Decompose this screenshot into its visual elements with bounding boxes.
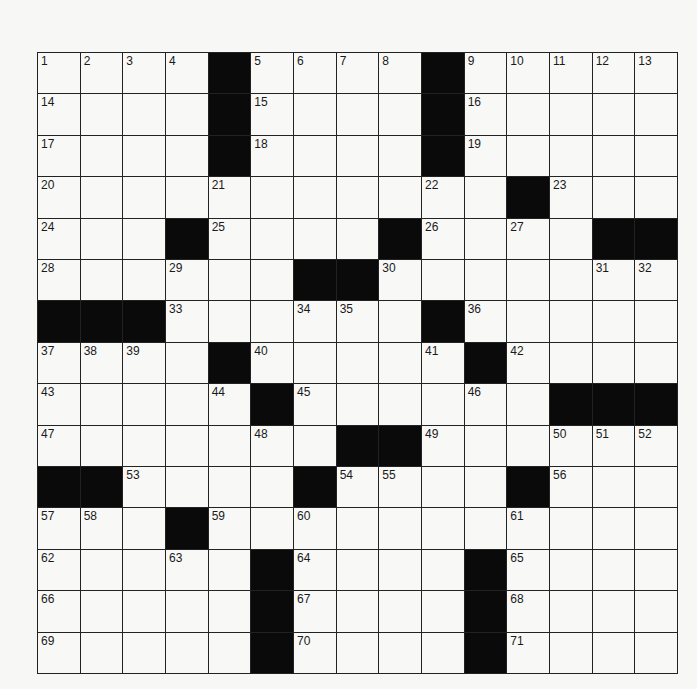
grid-cell[interactable]	[166, 633, 208, 673]
grid-cell[interactable]: 59	[209, 508, 251, 548]
grid-cell[interactable]	[507, 301, 549, 341]
grid-cell[interactable]	[81, 384, 123, 424]
grid-cell[interactable]: 11	[550, 53, 592, 93]
grid-cell[interactable]: 51	[593, 426, 635, 466]
grid-cell[interactable]: 39	[123, 343, 165, 383]
grid-cell[interactable]	[251, 177, 293, 217]
grid-cell[interactable]: 5	[251, 53, 293, 93]
grid-cell[interactable]	[593, 550, 635, 590]
grid-cell[interactable]: 12	[593, 53, 635, 93]
grid-cell[interactable]	[507, 426, 549, 466]
grid-cell[interactable]	[81, 633, 123, 673]
grid-cell[interactable]	[465, 260, 507, 300]
grid-cell[interactable]	[507, 136, 549, 176]
grid-cell[interactable]	[337, 550, 379, 590]
grid-cell[interactable]: 7	[337, 53, 379, 93]
grid-cell[interactable]	[550, 633, 592, 673]
grid-cell[interactable]	[635, 550, 677, 590]
grid-cell[interactable]	[507, 94, 549, 134]
grid-cell[interactable]: 46	[465, 384, 507, 424]
grid-cell[interactable]	[337, 343, 379, 383]
grid-cell[interactable]: 45	[294, 384, 336, 424]
grid-cell[interactable]	[123, 384, 165, 424]
grid-cell[interactable]	[294, 94, 336, 134]
grid-cell[interactable]	[379, 550, 421, 590]
grid-cell[interactable]	[422, 260, 464, 300]
grid-cell[interactable]	[550, 219, 592, 259]
grid-cell[interactable]	[550, 301, 592, 341]
grid-cell[interactable]: 65	[507, 550, 549, 590]
grid-cell[interactable]	[337, 94, 379, 134]
grid-cell[interactable]: 63	[166, 550, 208, 590]
grid-cell[interactable]	[123, 94, 165, 134]
grid-cell[interactable]	[337, 633, 379, 673]
grid-cell[interactable]	[550, 94, 592, 134]
grid-cell[interactable]: 36	[465, 301, 507, 341]
grid-cell[interactable]	[507, 384, 549, 424]
grid-cell[interactable]	[209, 467, 251, 507]
grid-cell[interactable]: 35	[337, 301, 379, 341]
grid-cell[interactable]	[209, 591, 251, 631]
grid-cell[interactable]	[465, 508, 507, 548]
grid-cell[interactable]: 6	[294, 53, 336, 93]
grid-cell[interactable]	[337, 136, 379, 176]
grid-cell[interactable]: 24	[38, 219, 80, 259]
grid-cell[interactable]	[635, 94, 677, 134]
grid-cell[interactable]	[422, 550, 464, 590]
grid-cell[interactable]: 48	[251, 426, 293, 466]
grid-cell[interactable]	[123, 633, 165, 673]
grid-cell[interactable]: 28	[38, 260, 80, 300]
grid-cell[interactable]: 13	[635, 53, 677, 93]
grid-cell[interactable]	[337, 591, 379, 631]
grid-cell[interactable]: 54	[337, 467, 379, 507]
grid-cell[interactable]	[422, 633, 464, 673]
grid-cell[interactable]: 58	[81, 508, 123, 548]
grid-cell[interactable]: 17	[38, 136, 80, 176]
grid-cell[interactable]	[81, 426, 123, 466]
grid-cell[interactable]	[635, 591, 677, 631]
grid-cell[interactable]: 41	[422, 343, 464, 383]
grid-cell[interactable]	[123, 136, 165, 176]
grid-cell[interactable]	[166, 467, 208, 507]
grid-cell[interactable]	[379, 94, 421, 134]
grid-cell[interactable]: 34	[294, 301, 336, 341]
grid-cell[interactable]	[123, 219, 165, 259]
grid-cell[interactable]: 26	[422, 219, 464, 259]
grid-cell[interactable]: 9	[465, 53, 507, 93]
grid-cell[interactable]: 15	[251, 94, 293, 134]
grid-cell[interactable]: 56	[550, 467, 592, 507]
grid-cell[interactable]	[465, 467, 507, 507]
grid-cell[interactable]	[550, 508, 592, 548]
grid-cell[interactable]	[337, 384, 379, 424]
grid-cell[interactable]	[123, 508, 165, 548]
grid-cell[interactable]	[593, 177, 635, 217]
grid-cell[interactable]	[379, 136, 421, 176]
grid-cell[interactable]	[550, 591, 592, 631]
grid-cell[interactable]	[209, 633, 251, 673]
grid-cell[interactable]	[635, 136, 677, 176]
grid-cell[interactable]	[209, 426, 251, 466]
grid-cell[interactable]	[507, 260, 549, 300]
grid-cell[interactable]	[337, 508, 379, 548]
grid-cell[interactable]: 66	[38, 591, 80, 631]
grid-cell[interactable]	[123, 550, 165, 590]
grid-cell[interactable]: 23	[550, 177, 592, 217]
grid-cell[interactable]: 71	[507, 633, 549, 673]
grid-cell[interactable]	[294, 343, 336, 383]
grid-cell[interactable]: 20	[38, 177, 80, 217]
grid-cell[interactable]	[379, 591, 421, 631]
grid-cell[interactable]: 4	[166, 53, 208, 93]
grid-cell[interactable]: 67	[294, 591, 336, 631]
grid-cell[interactable]	[251, 260, 293, 300]
grid-cell[interactable]: 44	[209, 384, 251, 424]
grid-cell[interactable]	[337, 219, 379, 259]
grid-cell[interactable]	[593, 343, 635, 383]
grid-cell[interactable]	[593, 467, 635, 507]
grid-cell[interactable]: 29	[166, 260, 208, 300]
grid-cell[interactable]	[166, 177, 208, 217]
grid-cell[interactable]	[166, 591, 208, 631]
grid-cell[interactable]	[422, 508, 464, 548]
grid-cell[interactable]: 1	[38, 53, 80, 93]
grid-cell[interactable]: 68	[507, 591, 549, 631]
grid-cell[interactable]: 21	[209, 177, 251, 217]
